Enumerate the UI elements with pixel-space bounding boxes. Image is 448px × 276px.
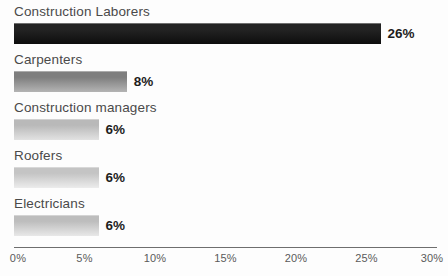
x-axis-line [14,247,437,248]
bar-group-1: Carpenters 8% [0,50,448,98]
category-label-1: Carpenters [14,50,82,69]
bar-row-2: 6% [14,119,125,140]
bar-value-2: 6% [106,122,125,137]
bar-chart: Construction Laborers 26% Carpenters 8% … [0,0,448,276]
bar-group-4: Electricians 6% [0,194,448,242]
bar-construction-laborers[interactable] [14,23,381,44]
bar-row-4: 6% [14,215,125,236]
bar-row-0: 26% [14,23,414,44]
x-tick-3: 15% [214,252,237,264]
category-label-4: Electricians [14,194,85,213]
bar-value-3: 6% [106,170,125,185]
x-tick-0: 0% [10,252,26,264]
x-axis-tick-labels: 0%5%10%15%20%25%30% [0,252,448,272]
bar-row-1: 8% [14,71,153,92]
bar-value-0: 26% [388,26,415,41]
category-label-0: Construction Laborers [14,2,150,21]
bar-electricians[interactable] [14,215,99,236]
bar-group-3: Roofers 6% [0,146,448,194]
category-label-2: Construction managers [14,98,157,117]
x-tick-4: 20% [285,252,308,264]
category-label-3: Roofers [14,146,62,165]
plot-area: Construction Laborers 26% Carpenters 8% … [0,0,448,244]
x-tick-2: 10% [144,252,167,264]
x-tick-5: 25% [355,252,378,264]
bar-value-4: 6% [106,218,125,233]
bar-group-0: Construction Laborers 26% [0,2,448,50]
x-tick-6: 30% [421,252,444,264]
bar-value-1: 8% [134,74,153,89]
bar-row-3: 6% [14,167,125,188]
bar-carpenters[interactable] [14,71,127,92]
bar-roofers[interactable] [14,167,99,188]
bar-group-2: Construction managers 6% [0,98,448,146]
bar-construction-managers[interactable] [14,119,99,140]
x-tick-1: 5% [76,252,92,264]
